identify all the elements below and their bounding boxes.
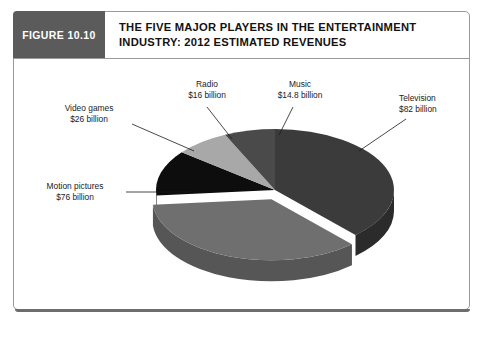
callout-music-value: $14.8 billion: [257, 90, 343, 101]
pie-chart: Radio $16 billion Music $14.8 billion Te…: [14, 59, 469, 309]
figure-title-line-2: INDUSTRY: 2012 ESTIMATED REVENUES: [119, 35, 470, 50]
callout-music: Music $14.8 billion: [257, 79, 343, 100]
figure-title: THE FIVE MAJOR PLAYERS IN THE ENTERTAINM…: [105, 11, 470, 58]
callout-television-name: Television: [399, 93, 479, 104]
figure-header: FIGURE 10.10 THE FIVE MAJOR PLAYERS IN T…: [13, 11, 470, 58]
callout-motion-pictures: Motion pictures $76 billion: [26, 181, 124, 202]
leader-line-video-games: [132, 124, 194, 151]
leader-line-radio: [207, 107, 232, 139]
callout-television: Television $82 billion: [399, 93, 479, 114]
callout-video-games-name: Video games: [47, 103, 131, 114]
callout-radio: Radio $16 billion: [164, 79, 250, 100]
callout-television-value: $82 billion: [399, 104, 479, 115]
callout-radio-name: Radio: [164, 79, 250, 90]
callout-video-games-value: $26 billion: [47, 114, 131, 125]
callout-music-name: Music: [257, 79, 343, 90]
figure-title-line-1: THE FIVE MAJOR PLAYERS IN THE ENTERTAINM…: [119, 20, 470, 35]
leader-line-television: [359, 119, 406, 151]
figure-screenshot: FIGURE 10.10 THE FIVE MAJOR PLAYERS IN T…: [0, 0, 489, 337]
callout-motion-pictures-name: Motion pictures: [26, 181, 124, 192]
callout-video-games: Video games $26 billion: [47, 103, 131, 124]
callout-motion-pictures-value: $76 billion: [26, 192, 124, 203]
figure-number-label: FIGURE 10.10: [22, 29, 96, 41]
callout-radio-value: $16 billion: [164, 90, 250, 101]
pie-slices: [153, 129, 394, 281]
figure-number-tag: FIGURE 10.10: [13, 11, 105, 58]
